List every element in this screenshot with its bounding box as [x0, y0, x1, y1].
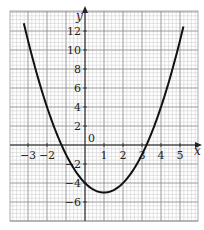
tick-labels: −3−2012345−6−4−224681012 — [20, 25, 184, 209]
svg-text:1: 1 — [101, 149, 108, 162]
svg-text:10: 10 — [67, 44, 81, 57]
svg-text:4: 4 — [74, 101, 81, 114]
x-axis-label: x — [194, 144, 201, 158]
svg-text:2: 2 — [74, 120, 81, 133]
svg-text:5: 5 — [177, 149, 184, 162]
axes — [10, 6, 202, 221]
y-axis-label: y — [75, 9, 83, 23]
parabola-curve — [24, 23, 184, 192]
svg-text:−3: −3 — [20, 149, 36, 162]
svg-text:12: 12 — [67, 25, 81, 38]
svg-text:0: 0 — [88, 132, 95, 145]
chart-canvas: −3−2012345−6−4−224681012 x y — [0, 0, 204, 230]
svg-text:2: 2 — [120, 149, 127, 162]
svg-text:6: 6 — [74, 82, 81, 95]
svg-text:−4: −4 — [65, 177, 81, 190]
svg-text:8: 8 — [74, 63, 81, 76]
svg-text:4: 4 — [158, 149, 165, 162]
svg-text:−6: −6 — [65, 196, 81, 209]
svg-text:−2: −2 — [65, 158, 81, 171]
parabola-chart: −3−2012345−6−4−224681012 x y — [0, 0, 204, 230]
svg-text:−2: −2 — [39, 149, 55, 162]
